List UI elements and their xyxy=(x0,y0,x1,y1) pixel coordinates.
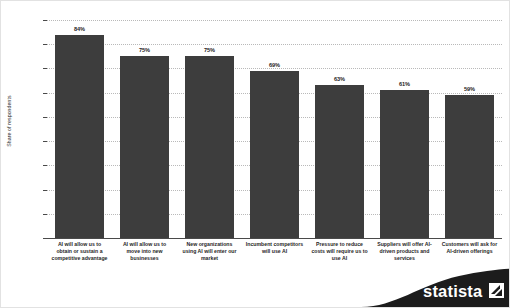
bar-value-label: 59% xyxy=(464,86,475,92)
bar[interactable]: 61% xyxy=(380,90,428,238)
x-axis-category-label: Suppliers will offer AI-driven products … xyxy=(372,241,437,263)
x-axis-category-label: AI will allow us tomove into newbusiness… xyxy=(112,241,177,263)
bar-chart: Share of respondents 0.0%10.0%20.0%30.0%… xyxy=(0,0,510,308)
x-axis-category-line: AI-driven offerings xyxy=(437,248,502,255)
bar[interactable]: 84% xyxy=(55,35,103,238)
y-axis-tick-mark xyxy=(43,238,47,239)
x-axis-category-line: AI will allow us to xyxy=(112,241,177,248)
x-axis-category-line: Incumbent competitors xyxy=(242,241,307,248)
bars-layer: 84%75%75%69%63%61%59% xyxy=(47,20,502,238)
x-axis-category-line: market xyxy=(177,255,242,262)
x-axis-category-line: driven products and xyxy=(372,248,437,255)
x-axis-category-label: Incumbent competitorswill use AI xyxy=(242,241,307,255)
x-axis-category-line: competitive advantage xyxy=(47,255,112,262)
x-axis-category-line: Pressure to reduce xyxy=(307,241,372,248)
y-axis-title-text: Share of respondents xyxy=(6,95,12,147)
bar-value-label: 75% xyxy=(139,47,150,53)
x-axis-category-label: Customers will ask forAI-driven offering… xyxy=(437,241,502,255)
plot-area: 0.0%10.0%20.0%30.0%40.0%50.0%60.0%70.0%8… xyxy=(47,20,502,238)
bar-value-label: 69% xyxy=(269,62,280,68)
x-axis-category-line: using AI will enter our xyxy=(177,248,242,255)
x-axis-category-line: will use AI xyxy=(242,248,307,255)
x-axis-category-line: New organizations xyxy=(177,241,242,248)
x-axis-category-line: AI will allow us to xyxy=(47,241,112,248)
gridline xyxy=(47,238,502,239)
x-axis-category-line: Suppliers will offer AI- xyxy=(372,241,437,248)
bar-value-label: 61% xyxy=(399,81,410,87)
x-axis-category-line: obtain or sustain a xyxy=(47,248,112,255)
bar[interactable]: 59% xyxy=(445,95,493,238)
y-axis-title: Share of respondents xyxy=(1,1,17,241)
x-axis-category-line: use AI xyxy=(307,255,372,262)
x-axis-category-label: AI will allow us toobtain or sustain aco… xyxy=(47,241,112,263)
x-axis-category-line: services xyxy=(372,255,437,262)
x-axis-category-line: businesses xyxy=(112,255,177,262)
bar-value-label: 75% xyxy=(204,47,215,53)
bar-value-label: 84% xyxy=(74,26,85,32)
bar[interactable]: 75% xyxy=(120,56,168,238)
bar-value-label: 63% xyxy=(334,76,345,82)
x-axis-category-line: costs will require us to xyxy=(307,248,372,255)
svg-text:statista: statista xyxy=(423,282,483,300)
x-axis-category-label: New organizationsusing AI will enter our… xyxy=(177,241,242,263)
bar[interactable]: 75% xyxy=(185,56,233,238)
bar[interactable]: 69% xyxy=(250,71,298,238)
x-axis-category-label: Pressure to reducecosts will require us … xyxy=(307,241,372,263)
x-axis-category-line: Customers will ask for xyxy=(437,241,502,248)
x-axis-category-line: move into new xyxy=(112,248,177,255)
x-axis-labels: AI will allow us toobtain or sustain aco… xyxy=(47,241,502,275)
bar[interactable]: 63% xyxy=(315,85,363,238)
